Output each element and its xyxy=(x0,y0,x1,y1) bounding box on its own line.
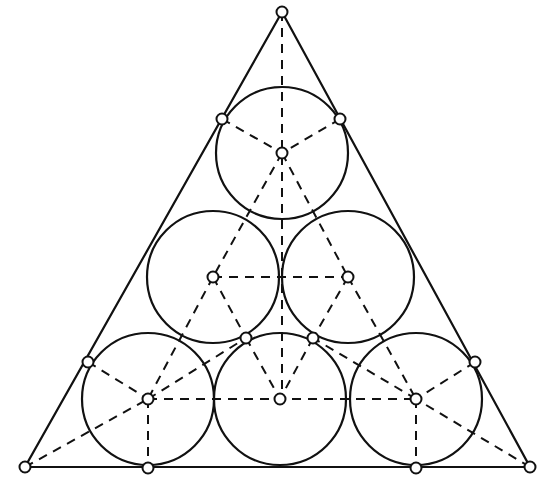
dashed-line xyxy=(88,362,148,399)
point-marker xyxy=(217,114,228,125)
dashed-line xyxy=(313,277,348,338)
dashed-line xyxy=(213,277,246,338)
point-marker xyxy=(143,463,154,474)
point-marker xyxy=(343,272,354,283)
point-marker xyxy=(411,463,422,474)
marked-points xyxy=(20,7,536,474)
point-marker xyxy=(241,333,252,344)
point-marker xyxy=(277,148,288,159)
triangle-circle-packing-diagram xyxy=(0,0,546,490)
dashed-line xyxy=(348,277,416,399)
dashed-line xyxy=(148,277,213,399)
point-marker xyxy=(143,394,154,405)
point-marker xyxy=(20,462,31,473)
dashed-line xyxy=(416,362,475,399)
dashed-line xyxy=(313,338,416,399)
point-marker xyxy=(308,333,319,344)
point-marker xyxy=(208,272,219,283)
point-marker xyxy=(277,7,288,18)
point-marker xyxy=(525,462,536,473)
dashed-line xyxy=(282,119,340,153)
dashed-line xyxy=(282,153,348,277)
dashed-line xyxy=(280,338,313,399)
point-marker xyxy=(83,357,94,368)
point-marker xyxy=(335,114,346,125)
dashed-line xyxy=(148,338,246,399)
point-marker xyxy=(411,394,422,405)
dashed-line xyxy=(222,119,282,153)
dashed-line xyxy=(213,153,282,277)
point-marker xyxy=(470,357,481,368)
point-marker xyxy=(275,394,286,405)
dashed-line xyxy=(246,338,280,399)
